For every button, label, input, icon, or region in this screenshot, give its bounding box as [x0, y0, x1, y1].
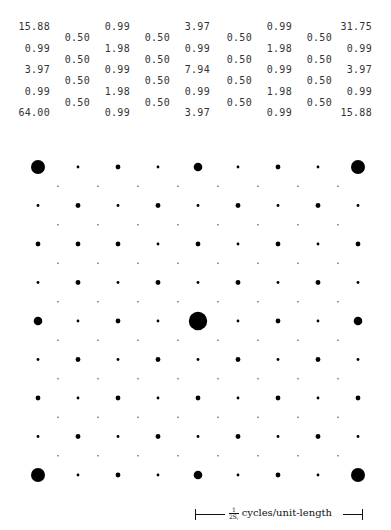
lattice-spot-offset	[177, 224, 178, 225]
lattice-spot	[357, 281, 360, 284]
lattice-spot	[37, 204, 40, 207]
lattice-spot-offset	[177, 301, 178, 302]
lattice-spot-offset	[177, 263, 178, 264]
lattice-spot-offset	[337, 186, 338, 187]
lattice-spot-offset	[337, 417, 338, 418]
table-cell-offset: 0.50	[292, 76, 332, 86]
lattice-spot-offset	[337, 340, 338, 341]
lattice-spot-offset	[337, 455, 338, 456]
lattice-spot	[36, 242, 41, 247]
lattice-spot-offset	[137, 263, 138, 264]
lattice-spot	[194, 471, 203, 480]
lattice-spot-offset	[97, 378, 98, 379]
lattice-spot	[236, 203, 241, 208]
lattice-spot	[194, 163, 203, 172]
table-cell-offset: 0.50	[212, 98, 252, 108]
lattice-spot	[354, 317, 363, 326]
lattice-spot	[156, 280, 161, 285]
table-cell-offset: 0.50	[292, 33, 332, 43]
lattice-spot	[316, 280, 321, 285]
lattice-spot-offset	[297, 378, 298, 379]
lattice-spot	[117, 204, 120, 207]
lattice-spot	[237, 166, 240, 169]
lattice-spot-offset	[297, 224, 298, 225]
table-cell: 0.99	[170, 44, 210, 54]
scale-bar-fraction: 1 2S,	[229, 507, 239, 520]
lattice-spot	[316, 434, 321, 439]
lattice-spot	[237, 320, 240, 323]
lattice-spot	[76, 203, 81, 208]
lattice-spot-offset	[297, 455, 298, 456]
lattice-spot-offset	[137, 301, 138, 302]
lattice-spot-offset	[257, 224, 258, 225]
lattice-spot	[236, 357, 241, 362]
lattice-spot-offset	[57, 455, 58, 456]
lattice-spot	[76, 434, 81, 439]
lattice-spot	[197, 435, 200, 438]
lattice-spot	[189, 312, 207, 330]
lattice-spot-offset	[297, 186, 298, 187]
lattice-spot-offset	[297, 417, 298, 418]
lattice-spot-offset	[57, 301, 58, 302]
lattice-spot	[197, 204, 200, 207]
table-cell: 15.88	[10, 22, 50, 32]
lattice-spot	[116, 319, 121, 324]
lattice-spot-offset	[137, 186, 138, 187]
lattice-spot	[197, 281, 200, 284]
scale-bar-right-tick	[362, 509, 363, 520]
lattice-spot	[277, 281, 280, 284]
table-cell-offset: 0.50	[292, 55, 332, 65]
lattice-spot	[351, 468, 365, 482]
lattice-spot	[117, 281, 120, 284]
table-cell: 0.99	[90, 108, 130, 118]
lattice-spot	[37, 358, 40, 361]
table-cell-offset: 0.50	[130, 55, 170, 65]
table-cell: 31.75	[332, 22, 372, 32]
table-cell: 0.99	[170, 87, 210, 97]
table-cell-offset: 0.50	[50, 98, 90, 108]
lattice-spot-offset	[217, 186, 218, 187]
table-cell-offset: 0.50	[292, 98, 332, 108]
lattice-spot	[76, 280, 81, 285]
table-cell: 0.99	[332, 44, 372, 54]
table-cell: 0.99	[90, 65, 130, 75]
lattice-spot	[276, 396, 281, 401]
lattice-spot-offset	[57, 378, 58, 379]
lattice-spot	[276, 319, 281, 324]
lattice-spot	[276, 242, 281, 247]
lattice-spot-offset	[97, 224, 98, 225]
lattice-spot	[157, 397, 160, 400]
lattice-spot	[237, 474, 240, 477]
lattice-spot	[351, 160, 365, 174]
lattice-spot	[116, 473, 121, 478]
lattice-spot	[196, 242, 201, 247]
lattice-spot	[276, 165, 281, 170]
intensity-table: 15.880.993.970.9931.750.991.980.991.980.…	[0, 0, 391, 120]
scale-bar: 1 2S, cycles/unit-length	[195, 506, 375, 522]
lattice-spot	[77, 320, 80, 323]
scale-bar-unit: cycles/unit-length	[242, 507, 332, 518]
lattice-spot-offset	[257, 263, 258, 264]
lattice-spot-offset	[257, 378, 258, 379]
lattice-spot	[117, 358, 120, 361]
lattice-spot-offset	[217, 301, 218, 302]
table-cell-offset: 0.50	[212, 76, 252, 86]
table-cell-offset: 0.50	[130, 98, 170, 108]
lattice-spot-offset	[257, 301, 258, 302]
lattice-spot	[77, 474, 80, 477]
lattice-spot	[316, 203, 321, 208]
table-cell: 0.99	[332, 87, 372, 97]
lattice-spot-offset	[257, 340, 258, 341]
lattice-spot	[196, 396, 201, 401]
lattice-spot	[31, 468, 45, 482]
lattice-spot-offset	[297, 263, 298, 264]
lattice-spot-offset	[57, 340, 58, 341]
table-cell-offset: 0.50	[130, 76, 170, 86]
table-cell: 3.97	[332, 65, 372, 75]
lattice-spot-offset	[217, 340, 218, 341]
table-cell-offset: 0.50	[50, 33, 90, 43]
table-cell: 1.98	[90, 87, 130, 97]
lattice-spot-offset	[257, 455, 258, 456]
lattice-spot-offset	[137, 417, 138, 418]
lattice-spot-offset	[137, 340, 138, 341]
